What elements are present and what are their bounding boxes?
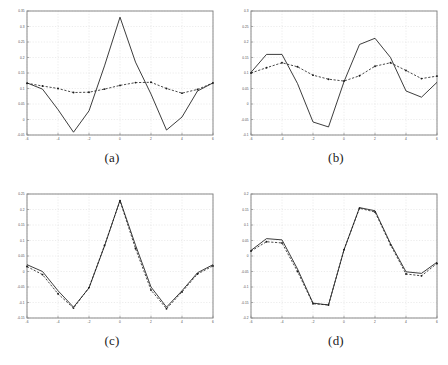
panel-a-axes: -0.0500.050.10.150.20.250.30.35-6-4-2024…: [0, 0, 224, 152]
panel-b-plot: -0.1-0.0500.050.10.150.20.250.3-6-4-2024…: [224, 0, 448, 152]
y-tick-label: -0.1: [243, 133, 249, 137]
data-point-marker: [181, 291, 183, 293]
data-point-marker: [181, 92, 183, 94]
y-tick-label: 0.2: [20, 56, 25, 60]
data-point-marker: [197, 273, 199, 275]
x-tick-label: 0: [119, 320, 121, 324]
x-tick-label: -2: [88, 320, 91, 324]
x-tick-label: 4: [181, 137, 183, 141]
panel-b-caption: (b): [224, 150, 448, 166]
data-point-marker: [343, 80, 345, 82]
data-point-marker: [421, 78, 423, 80]
y-tick-label: -0.2: [243, 316, 249, 320]
data-point-marker: [150, 289, 152, 291]
x-tick-label: -2: [312, 137, 315, 141]
y-tick-label: -0.05: [17, 285, 24, 289]
data-point-marker: [266, 241, 268, 243]
y-tick-label: 0.25: [18, 192, 24, 196]
x-tick-label: 6: [436, 137, 438, 141]
panel-a: -0.0500.050.10.150.20.250.30.35-6-4-2024…: [0, 0, 224, 182]
data-point-marker: [73, 92, 75, 94]
data-point-marker: [212, 265, 214, 267]
data-point-marker: [405, 70, 407, 72]
y-tick-label: -0.1: [19, 301, 25, 305]
panel-d-plot: -0.2-0.15-0.1-0.0500.050.10.150.2-6-4-20…: [224, 183, 448, 335]
x-tick-label: 0: [343, 137, 345, 141]
panel-c-caption: (c): [0, 333, 224, 349]
x-tick-label: 2: [374, 137, 376, 141]
x-tick-label: -4: [57, 137, 60, 141]
data-point-marker: [312, 74, 314, 76]
x-tick-label: -4: [281, 137, 284, 141]
data-point-marker: [374, 211, 376, 213]
y-tick-label: 0.15: [18, 71, 24, 75]
data-point-marker: [250, 250, 252, 252]
panel-c-plot: -0.15-0.1-0.0500.050.10.150.20.25-6-4-20…: [0, 183, 224, 335]
x-tick-label: 4: [405, 320, 407, 324]
y-tick-label: -0.05: [241, 270, 248, 274]
data-point-marker: [197, 88, 199, 90]
data-point-marker: [88, 287, 90, 289]
y-tick-label: 0.1: [244, 223, 249, 227]
y-tick-label: 0.3: [20, 25, 25, 29]
x-tick-label: 6: [436, 320, 438, 324]
x-tick-label: 4: [405, 137, 407, 141]
x-tick-label: 2: [150, 137, 152, 141]
x-tick-label: -2: [88, 137, 91, 141]
panel-c: -0.15-0.1-0.0500.050.10.150.20.25-6-4-20…: [0, 183, 224, 365]
panel-d: -0.2-0.15-0.1-0.0500.050.10.150.2-6-4-20…: [224, 183, 448, 365]
panel-c-axes: -0.15-0.1-0.0500.050.10.150.20.25-6-4-20…: [0, 183, 224, 335]
data-point-marker: [421, 275, 423, 277]
y-tick-label: -0.05: [241, 118, 248, 122]
x-tick-label: 6: [212, 320, 214, 324]
y-tick-label: 0.05: [242, 239, 248, 243]
data-point-marker: [343, 249, 345, 251]
data-point-marker: [104, 245, 106, 247]
data-point-marker: [281, 242, 283, 244]
data-point-marker: [26, 266, 28, 268]
y-tick-label: 0.2: [244, 192, 249, 196]
data-point-marker: [42, 85, 44, 87]
data-point-marker: [374, 65, 376, 67]
panel-d-axes: -0.2-0.15-0.1-0.0500.050.10.150.2-6-4-20…: [224, 183, 448, 335]
data-point-marker: [57, 293, 59, 295]
x-tick-label: -4: [281, 320, 284, 324]
data-point-marker: [119, 84, 121, 86]
y-tick-label: 0.2: [244, 40, 249, 44]
y-tick-label: 0: [247, 254, 249, 258]
y-tick-label: 0: [23, 270, 25, 274]
panel-a-caption: (a): [0, 150, 224, 166]
data-point-marker: [42, 274, 44, 276]
x-tick-label: -6: [250, 137, 253, 141]
y-tick-label: 0.1: [244, 71, 249, 75]
data-point-marker: [212, 82, 214, 84]
data-point-marker: [88, 91, 90, 93]
data-point-marker: [135, 82, 137, 84]
y-tick-label: 0.05: [18, 254, 24, 258]
x-tick-label: 6: [212, 137, 214, 141]
y-tick-label: 0.05: [242, 87, 248, 91]
data-point-marker: [390, 62, 392, 64]
y-tick-label: 0.3: [244, 9, 249, 13]
x-tick-label: -4: [57, 320, 60, 324]
y-tick-label: -0.1: [243, 285, 249, 289]
x-tick-label: 0: [119, 137, 121, 141]
y-tick-label: 0: [23, 118, 25, 122]
y-tick-label: 0.15: [242, 56, 248, 60]
y-tick-label: 0.35: [18, 9, 24, 13]
data-point-marker: [26, 82, 28, 84]
data-point-marker: [436, 75, 438, 77]
data-point-marker: [436, 262, 438, 264]
y-tick-label: 0.15: [242, 208, 248, 212]
y-tick-label: -0.15: [241, 301, 248, 305]
data-point-marker: [297, 271, 299, 273]
y-tick-label: 0.05: [18, 102, 24, 106]
panel-b-axes: -0.1-0.0500.050.10.150.20.250.3-6-4-2024…: [224, 0, 448, 152]
data-point-marker: [312, 303, 314, 305]
y-tick-label: -0.05: [17, 133, 24, 137]
data-point-marker: [166, 88, 168, 90]
panel-a-plot: -0.0500.050.10.150.20.250.30.35-6-4-2024…: [0, 0, 224, 152]
x-tick-label: 0: [343, 320, 345, 324]
data-point-marker: [104, 88, 106, 90]
data-point-marker: [297, 66, 299, 68]
